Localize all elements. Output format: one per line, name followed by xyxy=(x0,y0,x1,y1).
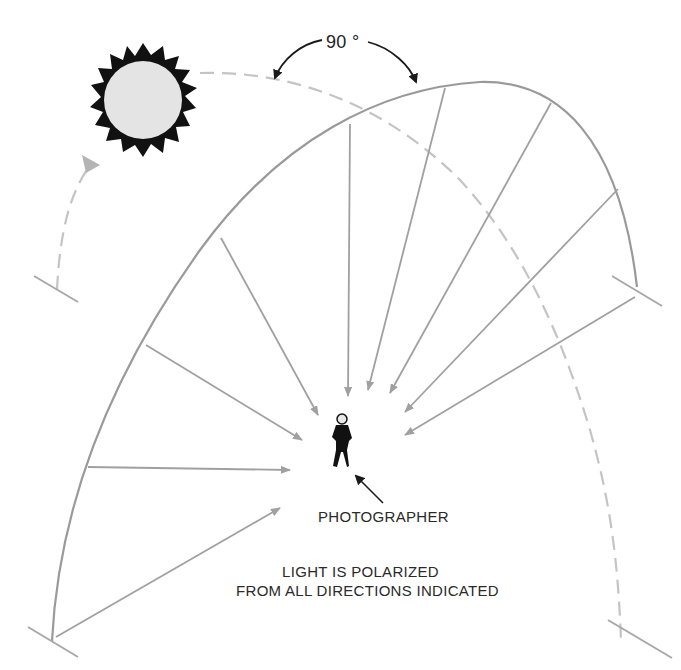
polarized-light-arrows xyxy=(56,88,635,637)
caption-line-2: FROM ALL DIRECTIONS INDICATED xyxy=(0,581,681,600)
photographer-label: PHOTOGRAPHER xyxy=(318,508,449,525)
ground-marker-left-upper xyxy=(34,276,78,302)
light-arrow-3 xyxy=(146,345,302,440)
angle-arrow-left-icon xyxy=(275,40,322,78)
angle-label: 90 ° xyxy=(326,32,359,53)
caption-line-1: LIGHT IS POLARIZED xyxy=(0,562,681,581)
caption: LIGHT IS POLARIZED FROM ALL DIRECTIONS I… xyxy=(0,562,681,600)
light-arrow-2 xyxy=(88,467,290,470)
light-arrow-7 xyxy=(390,103,551,393)
light-arrow-9 xyxy=(405,297,635,435)
light-arrow-8 xyxy=(405,189,618,412)
sun-path-arrow-icon xyxy=(82,155,100,173)
light-arrow-5 xyxy=(348,124,350,396)
ground-marker-right-lower xyxy=(608,620,672,658)
angle-arrow-right-icon xyxy=(368,42,416,82)
sun-icon xyxy=(90,43,197,157)
light-arrow-6 xyxy=(368,88,445,390)
photographer-pointer-arrow-icon xyxy=(356,476,383,503)
light-arrow-4 xyxy=(221,238,318,415)
photographer-figure-icon xyxy=(332,414,383,503)
sky-dome-arc xyxy=(52,82,637,641)
